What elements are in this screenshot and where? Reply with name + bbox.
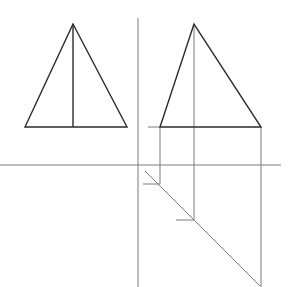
background <box>0 0 295 287</box>
diagram-svg <box>0 0 295 287</box>
projection-diagram <box>0 0 295 287</box>
